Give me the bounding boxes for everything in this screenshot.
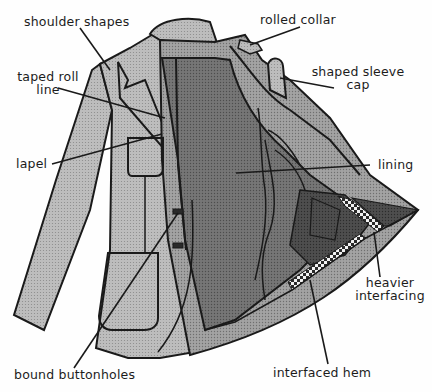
label-shaped-sleeve-cap-2: cap: [298, 78, 418, 91]
label-heavier-interfacing: heavier interfacing: [350, 276, 430, 302]
jacket-construction-diagram: shoulder shapes rolled collar taped roll…: [0, 0, 432, 392]
label-shaped-sleeve-cap: shaped sleeve cap: [298, 65, 418, 91]
label-interfaced-hem: interfaced hem: [273, 366, 371, 379]
label-bound-buttonholes: bound buttonholes: [14, 368, 135, 381]
label-lapel: lapel: [16, 157, 47, 170]
buttonhole-lower: [173, 243, 183, 248]
label-taped-roll-line: taped roll line: [10, 70, 86, 96]
leader-shoulder-shapes: [80, 28, 110, 70]
label-shoulder-shapes: shoulder shapes: [24, 15, 129, 28]
label-rolled-collar: rolled collar: [260, 13, 336, 26]
label-lining: lining: [378, 158, 413, 171]
left-sleeve: [14, 64, 112, 330]
jacket-illustration: [0, 0, 432, 392]
label-heavier-interfacing-2: interfacing: [350, 289, 430, 302]
leader-rolled-collar: [250, 27, 300, 45]
label-taped-roll-line-2: line: [10, 83, 86, 96]
